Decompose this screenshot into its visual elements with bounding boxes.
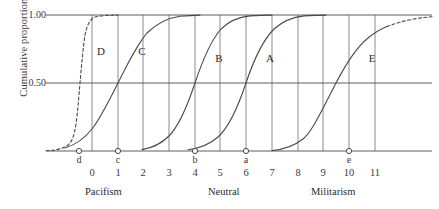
x-tick-2: 2 (133, 167, 153, 178)
point-label-a: a (238, 154, 254, 165)
curve-label-d: D (93, 45, 109, 57)
curve-label-e: E (364, 52, 380, 64)
x-tick-5: 5 (210, 167, 230, 178)
x-tick-1: 1 (108, 167, 128, 178)
x-tick-4: 4 (185, 167, 205, 178)
y-tick-label-0-5: 0.50 (12, 77, 46, 88)
point-label-d: d (71, 154, 87, 165)
x-tick-0: 0 (82, 167, 102, 178)
zone-label-pacifism: Pacifism (85, 186, 122, 197)
curve-e-solid (272, 27, 387, 151)
x-tick-8: 8 (288, 167, 308, 178)
curve-e-dashed-tail (387, 17, 434, 27)
x-tick-9: 9 (313, 167, 333, 178)
point-label-e: e (341, 154, 357, 165)
x-tick-3: 3 (159, 167, 179, 178)
zone-label-neutral: Neutral (208, 186, 240, 197)
zone-label-militarism: Militarism (311, 186, 355, 197)
x-tick-10: 10 (339, 167, 359, 178)
chart-figure: Cumulative proportions 1.00 0.50 (0, 0, 439, 209)
curve-label-b: B (211, 52, 227, 64)
curve-label-a: A (262, 52, 278, 64)
curve-b (142, 15, 272, 150)
reference-rules (46, 15, 432, 151)
x-tick-11: 11 (365, 167, 385, 178)
point-label-b: b (187, 154, 203, 165)
curve-label-c: C (134, 45, 150, 57)
x-tick-6: 6 (236, 167, 256, 178)
y-tick-label-1: 1.00 (12, 9, 46, 20)
point-label-c: c (110, 154, 126, 165)
x-tick-7: 7 (262, 167, 282, 178)
